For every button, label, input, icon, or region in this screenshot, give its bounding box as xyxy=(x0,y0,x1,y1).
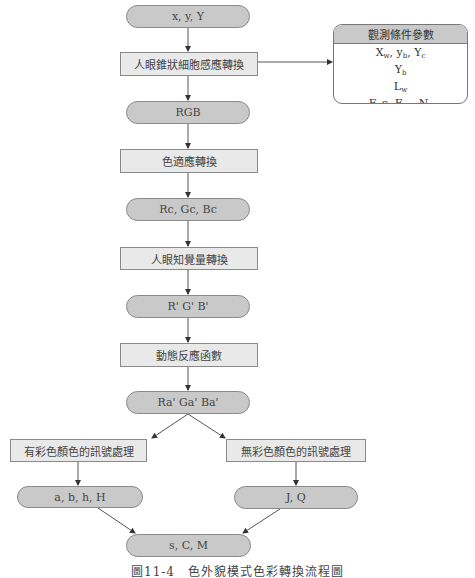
figure-caption: 圖11-4 色外貌模式色彩轉換流程圖 xyxy=(0,562,475,578)
cone-response-transform-step: 人眼錐狀細胞感應轉換 xyxy=(120,52,258,76)
ra-ga-ba-prime-node: Ra' Ga' Ba' xyxy=(126,391,250,414)
param-line-2: Yb xyxy=(334,63,467,80)
rgb-node: RGB xyxy=(126,101,250,124)
achromatic-signal-processing-step: 無彩色顏色的訊號處理 xyxy=(226,439,366,462)
s-C-M-node: s, C, M xyxy=(126,534,251,557)
perceptual-transform-step: 人眼知覺量轉換 xyxy=(120,247,258,270)
viewing-conditions-params: Xw, yb, Yc Yb Lw F, c, FLL, Nc xyxy=(334,44,467,104)
chromatic-signal-processing-step: 有彩色顏色的訊號處理 xyxy=(10,439,147,462)
rgb-prime-node: R' G' B' xyxy=(126,295,250,318)
viewing-conditions-title: 觀測條件參數 xyxy=(334,25,467,44)
rc-gc-bc-node: Rc, Gc, Bc xyxy=(126,198,250,221)
param-line-1: Xw, yb, Yc xyxy=(334,46,467,63)
param-line-3: Lw xyxy=(334,80,467,97)
param-line-4: F, c, FLL, Nc xyxy=(334,97,467,104)
input-xyY-node: x, y, Y xyxy=(126,5,250,28)
chromatic-adaptation-step: 色適應轉換 xyxy=(120,149,258,173)
dynamic-response-step: 動態反應函數 xyxy=(120,343,258,367)
a-b-h-H-node: a, b, h, H xyxy=(17,486,143,508)
J-Q-node: J, Q xyxy=(234,486,358,509)
viewing-conditions-panel: 觀測條件參數 Xw, yb, Yc Yb Lw F, c, FLL, Nc xyxy=(333,24,468,104)
